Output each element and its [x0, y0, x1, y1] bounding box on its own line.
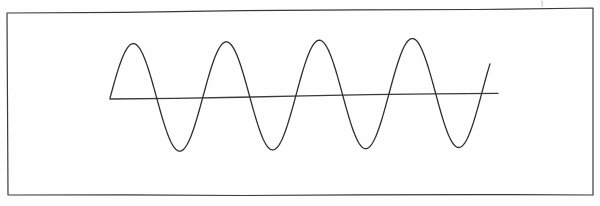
sine-wave-sketch-figure	[0, 0, 600, 206]
sketch-canvas	[0, 0, 600, 206]
canvas-background	[0, 0, 600, 206]
